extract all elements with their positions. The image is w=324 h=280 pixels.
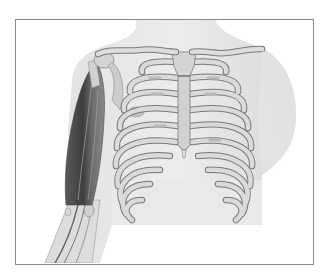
anatomy-illustration <box>0 0 324 280</box>
right-shoulder <box>258 50 296 178</box>
forearm <box>45 200 100 263</box>
